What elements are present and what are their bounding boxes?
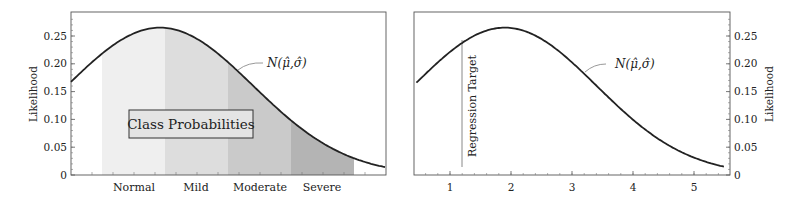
y-tick-label: 0.25 — [734, 30, 757, 42]
x-tick-label: 2 — [508, 181, 515, 193]
y-tick-label: 0.10 — [44, 113, 67, 125]
y-tick-label: 0.25 — [44, 30, 67, 42]
figure: 00.050.100.150.200.25 N(μ̂,σ̂) Class Pro… — [0, 0, 802, 209]
y-tick-label: 0.20 — [734, 57, 757, 69]
right-gaussian-curve — [416, 28, 724, 167]
left-y-axis-title: Likelihood — [27, 66, 39, 122]
category-moderate: Moderate — [233, 181, 287, 194]
right-y-axis-title: Likelihood — [763, 66, 775, 122]
y-tick-label: 0.05 — [734, 141, 757, 153]
right-curve-label: N(μ̂,σ̂) — [614, 57, 655, 71]
left-curve-leader-line — [238, 63, 263, 70]
class-bands — [102, 12, 354, 175]
class-probabilities-label: Class Probabilities — [127, 116, 255, 132]
left-y-axis: 00.050.100.150.200.25 — [44, 19, 75, 180]
band-mild — [165, 12, 228, 175]
x-tick-label: 4 — [630, 181, 637, 193]
band-moderate — [228, 12, 291, 175]
right-curve-leader-line — [585, 64, 606, 72]
x-tick-label: 3 — [569, 181, 576, 193]
y-tick-label: 0.10 — [734, 113, 757, 125]
category-mild: Mild — [183, 181, 208, 194]
y-tick-label: 0.15 — [44, 85, 67, 97]
left-curve-label: N(μ̂,σ̂) — [266, 56, 307, 70]
y-tick-label: 0 — [60, 169, 67, 181]
y-tick-label: 0.05 — [44, 141, 67, 153]
y-tick-label: 0 — [734, 169, 741, 181]
x-tick-label: 1 — [447, 181, 454, 193]
band-severe — [291, 12, 354, 175]
category-severe: Severe — [303, 181, 342, 194]
x-tick-label: 5 — [691, 181, 698, 193]
left-panel: 00.050.100.150.200.25 N(μ̂,σ̂) Class Pro… — [27, 12, 386, 194]
right-y-axis: 00.050.100.150.200.25 — [726, 19, 757, 180]
y-tick-label: 0.20 — [44, 57, 67, 69]
right-panel: 00.050.100.150.200.25 12345 Regression T… — [414, 12, 775, 193]
right-plot-frame — [414, 12, 730, 175]
right-x-axis: 12345 — [426, 171, 719, 193]
band-normal — [102, 12, 165, 175]
y-tick-label: 0.15 — [734, 85, 757, 97]
category-normal: Normal — [113, 181, 155, 194]
regression-target-label: Regression Target — [466, 55, 479, 157]
